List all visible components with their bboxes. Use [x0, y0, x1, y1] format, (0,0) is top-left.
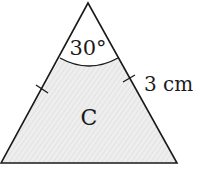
side-length-label: 3 cm: [144, 72, 193, 96]
triangle-diagram: 30° 3 cm C: [0, 0, 202, 178]
region-label: C: [81, 105, 98, 130]
angle-label: 30°: [69, 36, 106, 60]
